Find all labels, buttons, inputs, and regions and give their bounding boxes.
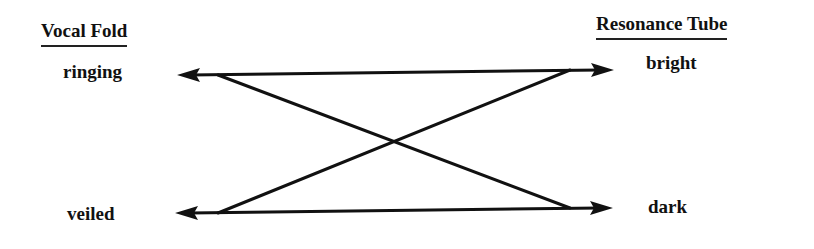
- connection-ringing-bright: [190, 70, 600, 75]
- connection-veiled-bright: [218, 70, 570, 213]
- connection-veiled-dark: [190, 208, 600, 213]
- connection-diagram: [0, 0, 814, 249]
